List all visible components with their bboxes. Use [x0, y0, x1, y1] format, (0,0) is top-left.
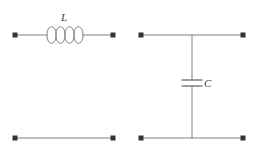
circuit-diagram-figure: L C: [0, 0, 260, 153]
capacitor-symbol: [182, 80, 202, 86]
inductor-loop-2: [56, 27, 65, 44]
terminal-bottom-right: [241, 136, 246, 141]
inductor-loop-3: [65, 27, 74, 44]
terminal-top-left: [13, 33, 18, 38]
capacitor-label: C: [204, 78, 211, 89]
terminal-top-left: [139, 33, 144, 38]
inductor-loop-4: [74, 27, 83, 44]
terminal-top-right: [111, 33, 116, 38]
terminal-bottom-left: [13, 136, 18, 141]
shunt-capacitor-network: [139, 33, 246, 141]
terminal-top-right: [241, 33, 246, 38]
series-inductor-network: [13, 27, 116, 141]
inductor-label: L: [61, 12, 67, 23]
inductor-loop-1: [47, 27, 56, 44]
terminal-bottom-right: [111, 136, 116, 141]
inductor-symbol: [47, 27, 83, 44]
diagram-canvas: [0, 0, 260, 153]
terminal-bottom-left: [139, 136, 144, 141]
